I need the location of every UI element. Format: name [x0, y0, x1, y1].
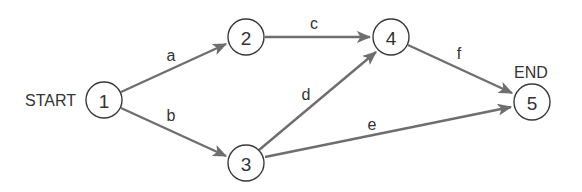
node-4: 4 [373, 19, 409, 55]
edge-d-arrow [259, 52, 376, 150]
edge-label-a: a [167, 47, 176, 64]
edge-label-d: d [302, 86, 311, 103]
svg-text:3: 3 [241, 154, 252, 175]
svg-text:5: 5 [527, 93, 538, 114]
svg-text:1: 1 [99, 91, 110, 112]
edge-label-e: e [368, 116, 377, 133]
network-diagram: a b c d e f START END 1 2 3 4 5 [0, 0, 582, 192]
edge-label-b: b [167, 107, 176, 124]
start-label: START [25, 92, 76, 109]
node-3: 3 [228, 145, 264, 181]
node-2: 2 [228, 19, 264, 55]
edge-label-f: f [457, 45, 462, 62]
edge-label-c: c [310, 15, 318, 32]
svg-text:2: 2 [241, 28, 252, 49]
svg-text:4: 4 [386, 28, 397, 49]
end-label: END [514, 64, 548, 81]
node-5: 5 [514, 84, 550, 120]
node-1: 1 [86, 82, 122, 118]
